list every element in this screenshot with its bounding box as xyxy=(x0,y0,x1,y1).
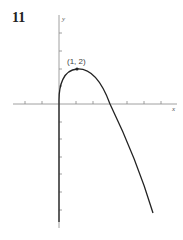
x-axis-label: x xyxy=(171,105,176,113)
max-point xyxy=(75,67,78,70)
function-graph: (1, 2) y x xyxy=(0,0,183,240)
point-label: (1, 2) xyxy=(67,57,86,66)
y-axis-label: y xyxy=(61,15,66,23)
x-axis xyxy=(13,101,177,104)
curve xyxy=(59,69,153,222)
